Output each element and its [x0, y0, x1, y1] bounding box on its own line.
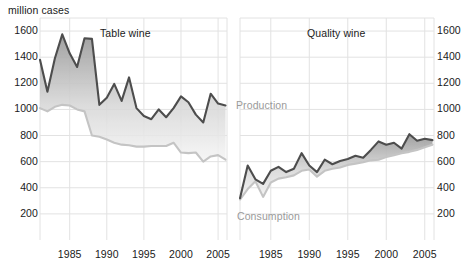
x-tick-table-1995: 1995	[124, 248, 164, 260]
x-tick-table-2000: 2000	[161, 248, 201, 260]
series-label-production: Production	[236, 99, 287, 111]
y-tick-left-1200: 1200	[4, 76, 38, 88]
panel-title-quality-wine: Quality wine	[307, 27, 365, 39]
x-tick-table-1985: 1985	[50, 248, 90, 260]
x-tick-quality-1995: 1995	[328, 248, 368, 260]
y-tick-right-1000: 1000	[437, 102, 471, 114]
y-tick-left-1000: 1000	[4, 102, 38, 114]
y-tick-right-400: 400	[437, 181, 471, 193]
y-tick-left-1400: 1400	[4, 50, 38, 62]
panel-title-table-wine: Table wine	[100, 27, 151, 39]
x-tick-quality-2005: 2005	[405, 248, 445, 260]
chart-figure: million cases Table wine Quality wine Pr…	[0, 0, 475, 267]
y-tick-left-200: 200	[4, 207, 38, 219]
y-tick-right-200: 200	[437, 207, 471, 219]
y-tick-right-1200: 1200	[437, 76, 471, 88]
x-tick-quality-1990: 1990	[289, 248, 329, 260]
area-hatch-quality-wine	[240, 18, 434, 240]
y-tick-left-400: 400	[4, 181, 38, 193]
y-tick-right-1600: 1600	[437, 24, 471, 36]
y-tick-right-1400: 1400	[437, 50, 471, 62]
y-tick-left-800: 800	[4, 129, 38, 141]
y-tick-right-600: 600	[437, 155, 471, 167]
x-tick-table-1990: 1990	[87, 248, 127, 260]
x-tick-table-2005: 2005	[198, 248, 238, 260]
chart-canvas	[0, 0, 475, 267]
x-tick-quality-1985: 1985	[251, 248, 291, 260]
y-tick-right-800: 800	[437, 129, 471, 141]
series-label-consumption: Consumption	[237, 210, 300, 222]
y-tick-left-600: 600	[4, 155, 38, 167]
x-tick-quality-2000: 2000	[366, 248, 406, 260]
y-tick-left-1600: 1600	[4, 24, 38, 36]
